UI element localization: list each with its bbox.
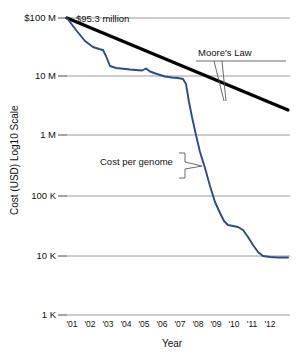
x-axis-labels: '01 '02 '03 '04 '05 '06 '07 '08 '09 '10 …	[66, 319, 275, 329]
x-axis-title: Year	[162, 338, 183, 349]
y-axis-labels: $100 M 10 M 1 M 100 K 10 K 1 K	[24, 12, 56, 320]
x-label-12: '12	[264, 319, 275, 329]
y-label-1k: 1 K	[42, 309, 57, 320]
y-label-100k: 100 K	[31, 190, 56, 201]
cost-label-bracket-top	[179, 153, 185, 162]
annotation-start-value: $95.3 million	[76, 13, 129, 24]
x-label-06: '06	[156, 319, 167, 329]
moores-law-line	[67, 18, 288, 110]
genome-cost-chart: $100 M 10 M 1 M 100 K 10 K 1 K Cost (USD…	[0, 0, 297, 353]
x-label-09: '09	[210, 319, 221, 329]
moores-law-label: Moore's Law	[198, 47, 252, 58]
y-label-10k: 10 K	[36, 250, 56, 261]
start-value-label: $95.3 million	[76, 13, 129, 24]
x-label-10: '10	[228, 319, 239, 329]
x-label-11: '11	[247, 319, 258, 329]
cost-per-genome-label: Cost per genome	[100, 156, 173, 167]
x-label-03: '03	[102, 319, 113, 329]
y-label-1m: 1 M	[40, 129, 56, 140]
chart-canvas: $100 M 10 M 1 M 100 K 10 K 1 K Cost (USD…	[0, 0, 297, 353]
x-label-02: '02	[84, 319, 95, 329]
annotation-cost-per-genome: Cost per genome	[100, 153, 202, 178]
x-label-07: '07	[174, 319, 185, 329]
x-label-01: '01	[66, 319, 77, 329]
y-label-10m: 10 M	[35, 70, 56, 81]
x-label-05: '05	[138, 319, 149, 329]
y-tickmarks	[58, 18, 67, 315]
x-label-04: '04	[120, 319, 131, 329]
y-label-100m: $100 M	[24, 12, 56, 23]
cost-per-genome-line	[67, 18, 288, 258]
annotation-moores-law: Moore's Law	[196, 47, 286, 101]
cost-label-leader-bottom	[185, 166, 202, 169]
cost-label-bracket-bottom	[179, 169, 185, 178]
x-label-08: '08	[192, 319, 203, 329]
y-axis-title: Cost (USD) Log10 Scale	[9, 105, 20, 215]
cost-label-leader-top	[185, 162, 202, 166]
